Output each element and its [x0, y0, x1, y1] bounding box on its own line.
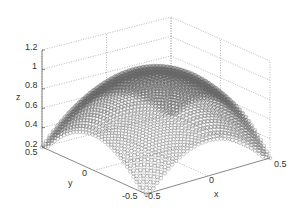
z-tick-label: 1	[32, 62, 37, 71]
scatter3d-plot	[0, 0, 303, 213]
scatter-points	[40, 64, 272, 196]
x-tick-label: 0	[209, 176, 214, 185]
y-axis-label: y	[68, 179, 73, 188]
x-axis-label: x	[214, 190, 219, 199]
z-tick-label: 0.8	[25, 81, 38, 90]
x-tick-label: -0.5	[145, 192, 161, 201]
y-tick-label: 0	[82, 169, 87, 178]
x-tick-label: 0.5	[274, 160, 287, 169]
z-tick-label: 0.6	[25, 101, 38, 110]
z-axis-label: z	[16, 93, 21, 102]
y-tick-label: 0.5	[25, 148, 38, 157]
z-tick-label: 1.2	[25, 43, 38, 52]
y-tick-label: -0.5	[122, 192, 138, 201]
z-tick-label: 0.4	[25, 120, 38, 129]
